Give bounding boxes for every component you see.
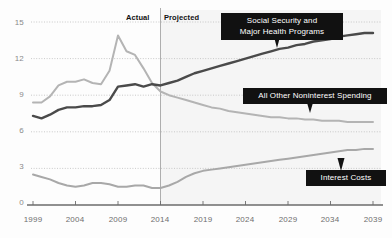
x-tick-2024: 2024 [225, 215, 265, 224]
x-tick-1999: 1999 [13, 215, 53, 224]
x-tick-2014: 2014 [140, 215, 180, 224]
x-tick-2009: 2009 [98, 215, 138, 224]
callout-all-other-noninterest-spending: All Other Noninterest Spending [243, 88, 387, 104]
y-tick-0: 0 [2, 198, 24, 207]
x-tick-2039: 2039 [353, 215, 392, 224]
y-tick-9: 9 [2, 90, 24, 99]
y-tick-15: 15 [2, 18, 24, 27]
label-projected: Projected [164, 13, 199, 22]
callout-social-security: Social Security and Major Health Program… [221, 13, 343, 40]
label-actual: Actual [126, 13, 150, 22]
x-tick-2034: 2034 [310, 215, 350, 224]
callout-interest-costs: Interest Costs [306, 170, 386, 186]
chart-container: 15 12 9 6 3 0 1999 2004 2009 2014 2019 2… [0, 0, 392, 238]
y-tick-3: 3 [2, 162, 24, 171]
x-tick-2029: 2029 [268, 215, 308, 224]
y-tick-6: 6 [2, 126, 24, 135]
x-tick-2004: 2004 [55, 215, 95, 224]
x-tick-2019: 2019 [183, 215, 223, 224]
y-tick-12: 12 [2, 54, 24, 63]
